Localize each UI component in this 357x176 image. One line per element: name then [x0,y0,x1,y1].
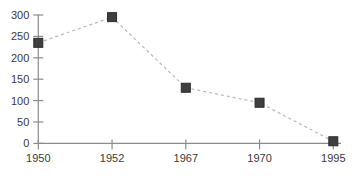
data-marker [329,137,338,146]
data-marker [181,83,190,92]
line-chart: 05010015020025030019501952196719701995 [0,0,357,176]
y-tick-label: 100 [11,95,29,107]
y-tick-label: 300 [11,9,29,21]
x-tick-label: 1952 [100,152,124,164]
y-tick-label: 150 [11,73,29,85]
y-tick-label: 250 [11,30,29,42]
x-tick-label: 1970 [247,152,271,164]
trend-line [38,17,333,141]
data-marker [255,98,264,107]
y-tick-label: 200 [11,52,29,64]
data-marker [108,13,117,22]
x-tick-label: 1995 [321,152,345,164]
y-tick-label: 0 [23,137,29,149]
chart-container: 05010015020025030019501952196719701995 [0,0,357,176]
data-marker [34,38,43,47]
x-tick-label: 1950 [26,152,50,164]
y-tick-label: 50 [17,116,29,128]
x-tick-label: 1967 [174,152,198,164]
